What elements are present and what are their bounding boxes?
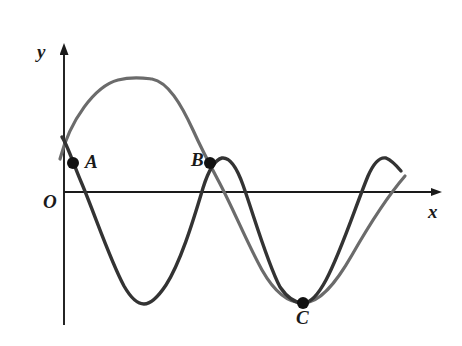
point-label-a: A [85,152,98,171]
intersection-point-b [204,157,216,169]
y-axis-label: y [37,42,45,61]
gray-sinusoid-curve [60,78,405,303]
intersection-point-a [67,157,79,169]
figure-canvas: y x O A B C [0,0,462,346]
point-label-c: C [296,308,309,327]
dark-sinusoid-curve [62,137,401,304]
plot-area [0,0,462,346]
x-axis-label: x [428,202,438,221]
point-label-b: B [191,150,204,169]
origin-label: O [43,192,57,211]
